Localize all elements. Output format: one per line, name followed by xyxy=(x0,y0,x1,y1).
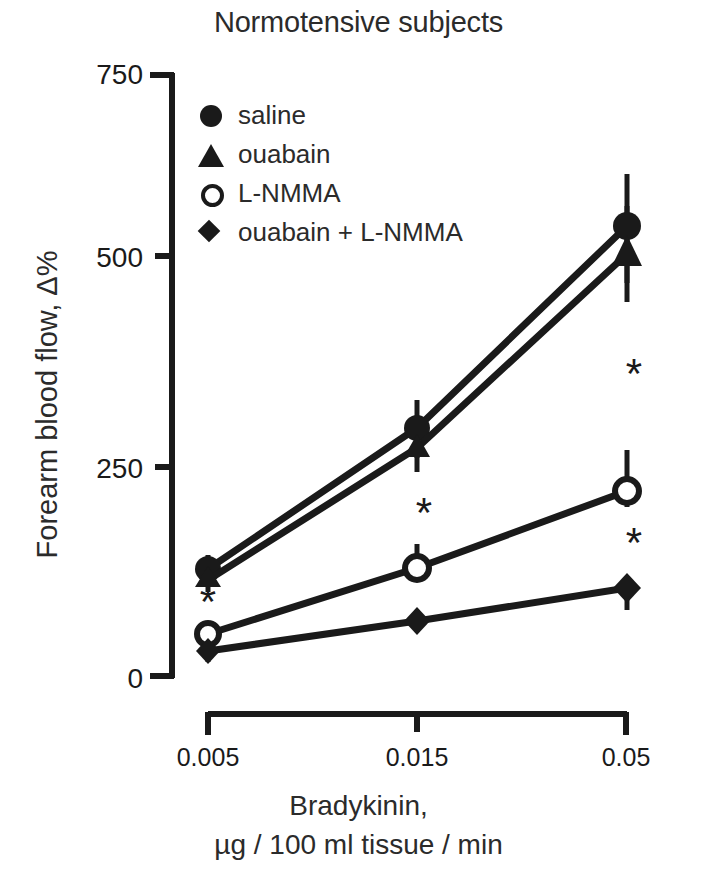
y-tick-label-750: 750 xyxy=(96,59,143,90)
data-point-ouabain-l-nmma-3 xyxy=(613,573,641,603)
y-axis xyxy=(150,73,174,678)
chart-figure: Normotensive subjects Forearm blood flow… xyxy=(0,0,717,886)
legend-item-l-nmma: L-NMMA xyxy=(196,174,463,213)
legend-label-ouabain: ouabain xyxy=(238,139,331,170)
filled-triangle-icon xyxy=(196,138,234,172)
y-tick-label-250: 250 xyxy=(96,453,143,484)
x-tick-label-1: 0.005 xyxy=(177,743,240,771)
significance-asterisk-3: * xyxy=(626,350,642,397)
chart-legend: saline ouabain L-NMMA ouabain + L-NMMA xyxy=(196,96,463,252)
filled-diamond-icon xyxy=(196,216,234,250)
x-axis-label-line1: Bradykinin, xyxy=(0,786,717,825)
x-tick-label-3: 0.05 xyxy=(602,743,651,771)
y-tick-label-500: 500 xyxy=(96,242,143,273)
open-circle-icon xyxy=(196,177,234,211)
legend-label-l-nmma: L-NMMA xyxy=(238,178,341,209)
legend-item-ouabain-l-nmma: ouabain + L-NMMA xyxy=(196,213,463,252)
legend-item-ouabain: ouabain xyxy=(196,135,463,174)
x-axis-label-line2: µg / 100 ml tissue / min xyxy=(0,825,717,864)
data-point-l-nmma-3 xyxy=(615,479,639,503)
filled-circle-icon xyxy=(196,99,234,133)
y-tick-label-0: 0 xyxy=(127,663,143,694)
x-axis-label: Bradykinin, µg / 100 ml tissue / min xyxy=(0,786,717,864)
significance-asterisk-2: * xyxy=(416,489,432,536)
significance-asterisk-4: * xyxy=(626,519,642,566)
x-axis xyxy=(208,712,627,735)
legend-label-ouabain-l-nmma: ouabain + L-NMMA xyxy=(238,217,463,248)
legend-label-saline: saline xyxy=(238,100,306,131)
data-point-l-nmma-2 xyxy=(405,556,429,580)
x-tick-label-2: 0.015 xyxy=(386,743,449,771)
significance-asterisk-1: * xyxy=(200,578,216,625)
legend-item-saline: saline xyxy=(196,96,463,135)
data-point-ouabain-l-nmma-2 xyxy=(404,607,430,635)
